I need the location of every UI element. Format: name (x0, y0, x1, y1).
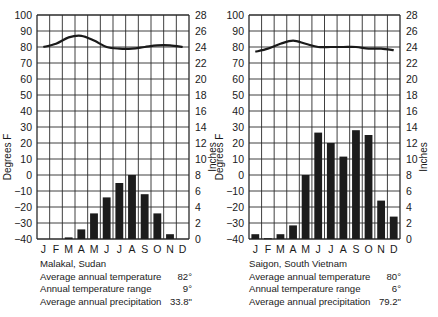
precip-bar (289, 225, 297, 239)
precip-bar (339, 157, 347, 239)
svg-text:24: 24 (406, 41, 418, 53)
svg-text:14: 14 (195, 121, 207, 133)
svg-text:10: 10 (20, 153, 32, 165)
svg-text:70: 70 (20, 57, 32, 69)
left-axis-title: Degrees F (214, 134, 225, 181)
precip-bar (365, 135, 373, 239)
svg-text:30: 30 (20, 121, 32, 133)
svg-text:12: 12 (406, 137, 418, 149)
svg-text:20: 20 (20, 137, 32, 149)
svg-text:60: 60 (232, 73, 244, 85)
precip-bar (141, 194, 149, 239)
svg-text:J: J (253, 243, 258, 255)
svg-text:−40: −40 (226, 233, 244, 245)
svg-text:S: S (141, 243, 148, 255)
svg-text:−10: −10 (226, 185, 244, 197)
svg-text:−40: −40 (14, 233, 32, 245)
svg-text:10: 10 (232, 153, 244, 165)
svg-text:−30: −30 (14, 217, 32, 229)
svg-text:0: 0 (406, 233, 412, 245)
svg-text:M: M (301, 243, 310, 255)
precip-bar (90, 213, 98, 239)
svg-text:26: 26 (195, 25, 207, 37)
svg-text:50: 50 (20, 89, 32, 101)
svg-text:A: A (78, 243, 85, 255)
svg-text:6: 6 (195, 185, 201, 197)
avg-temp-label: Average annual temperature (249, 271, 370, 284)
right-axis-ticks: 2826242220181614121086420 (195, 9, 207, 245)
svg-text:50: 50 (232, 89, 244, 101)
temp-range-label: Annual temperature range (249, 283, 360, 296)
svg-text:F: F (53, 243, 59, 255)
left-axis-title: Degrees F (2, 134, 13, 181)
svg-text:O: O (364, 243, 372, 255)
chart-panel-saigon: 1009080706050403020100−10−20−30−40282624… (212, 0, 431, 317)
climate-chart-saigon: 1009080706050403020100−10−20−30−40282624… (212, 0, 438, 255)
svg-text:40: 40 (232, 105, 244, 117)
svg-text:90: 90 (232, 25, 244, 37)
city-name: Malakal, Sudan (40, 258, 192, 271)
svg-text:4: 4 (195, 201, 201, 213)
svg-text:16: 16 (195, 105, 207, 117)
svg-text:J: J (41, 243, 46, 255)
climate-chart-malakal: 1009080706050403020100−10−20−30−40282624… (0, 0, 219, 255)
svg-text:90: 90 (20, 25, 32, 37)
chart-panel-malakal: 1009080706050403020100−10−20−30−40282624… (0, 0, 219, 317)
precip-bar (103, 197, 111, 239)
svg-text:M: M (64, 243, 73, 255)
svg-text:30: 30 (232, 121, 244, 133)
svg-text:22: 22 (406, 57, 418, 69)
month-labels: JFMAMJJASOND (41, 243, 187, 255)
precip-bar (302, 175, 310, 239)
temp-range-value: 9° (183, 283, 192, 296)
svg-text:F: F (265, 243, 271, 255)
svg-text:D: D (390, 243, 398, 255)
precip-bar (251, 234, 259, 239)
precip-bar (264, 238, 272, 239)
svg-text:70: 70 (232, 57, 244, 69)
precip-bar (77, 229, 85, 239)
svg-text:M: M (276, 243, 285, 255)
svg-text:−20: −20 (226, 201, 244, 213)
svg-text:22: 22 (195, 57, 207, 69)
precip-bar (377, 201, 385, 239)
svg-text:24: 24 (195, 41, 207, 53)
svg-text:A: A (290, 243, 297, 255)
svg-text:80: 80 (20, 41, 32, 53)
svg-text:J: J (328, 243, 333, 255)
precip-bar (65, 237, 73, 239)
svg-text:0: 0 (26, 169, 32, 181)
svg-text:10: 10 (406, 153, 418, 165)
svg-text:80: 80 (232, 41, 244, 53)
city-name: Saigon, South Vietnam (249, 258, 401, 271)
svg-text:28: 28 (406, 9, 418, 21)
avg-temp-label: Average annual temperature (40, 271, 161, 284)
svg-text:100: 100 (14, 9, 32, 21)
precip-label: Average annual precipitation (249, 296, 370, 309)
svg-text:0: 0 (195, 233, 201, 245)
svg-text:20: 20 (232, 137, 244, 149)
svg-text:60: 60 (20, 73, 32, 85)
svg-text:18: 18 (406, 89, 418, 101)
svg-text:S: S (352, 243, 359, 255)
svg-text:28: 28 (195, 9, 207, 21)
precip-bar (166, 234, 174, 239)
stats-saigon: Saigon, South Vietnam Average annual tem… (249, 258, 401, 308)
svg-text:10: 10 (195, 153, 207, 165)
svg-text:J: J (316, 243, 321, 255)
svg-text:18: 18 (195, 89, 207, 101)
svg-text:J: J (117, 243, 122, 255)
precip-value: 33.8" (170, 296, 192, 309)
svg-text:−10: −10 (14, 185, 32, 197)
svg-text:−30: −30 (226, 217, 244, 229)
precip-bar (314, 133, 322, 239)
precip-bar (327, 143, 335, 239)
precip-bar (115, 183, 123, 239)
precip-bar (277, 234, 285, 239)
month-labels: JFMAMJJASOND (253, 243, 398, 255)
temp-range-value: 6° (392, 283, 401, 296)
precip-label: Average annual precipitation (40, 296, 161, 309)
temp-range-label: Annual temperature range (40, 283, 151, 296)
svg-text:16: 16 (406, 105, 418, 117)
precip-bar (153, 213, 161, 239)
